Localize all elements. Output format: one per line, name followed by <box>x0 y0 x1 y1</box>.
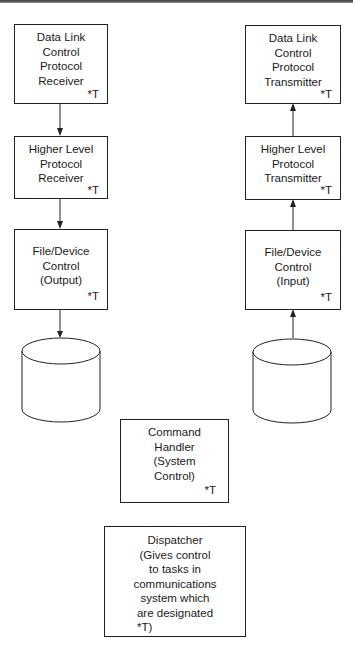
box-label-line: (System <box>121 454 228 469</box>
task-marker: *T <box>88 289 100 304</box>
box-label-line: (Output) <box>15 273 107 288</box>
task-marker: *T <box>205 483 217 498</box>
box-label-line: Dispatcher <box>105 533 245 548</box>
box-label-line: *T) <box>105 620 245 635</box>
box-label-line: (Gives control <box>105 548 245 563</box>
input-storage-cylinder-icon <box>253 339 331 423</box>
box-label-line: Protocol <box>15 157 107 172</box>
arrow-hlp-to-dlc-transmitter <box>290 103 296 136</box>
box-label-line: Data Link <box>15 30 107 45</box>
box-label-line: Higher Level <box>246 142 340 157</box>
dispatcher-box: Dispatcher (Gives control to tasks in co… <box>104 526 246 637</box>
box-label-line: File/Device <box>15 244 107 259</box>
box-label-line: system which <box>105 591 245 606</box>
box-label-line: Data Link <box>246 31 340 46</box>
task-marker: *T <box>321 183 333 198</box>
command-handler-box: Command Handler (System Control) *T <box>120 419 229 503</box>
box-label-line: Receiver <box>15 74 107 89</box>
box-label-line: Control <box>246 46 340 61</box>
hlp-transmitter-box: Higher Level Protocol Transmitter *T <box>245 136 341 200</box>
task-marker: *T <box>321 87 333 102</box>
arrow-fdc-input-to-hlp-transmitter <box>290 199 296 230</box>
box-label-line: to tasks in <box>105 562 245 577</box>
box-label-line: Control) <box>121 469 228 484</box>
dlc-protocol-transmitter-box: Data Link Control Protocol Transmitter *… <box>245 25 341 104</box>
file-device-control-output-box: File/Device Control (Output) *T <box>14 229 108 310</box>
hlp-receiver-box: Higher Level Protocol Receiver *T <box>14 136 108 199</box>
dlc-protocol-receiver-box: Data Link Control Protocol Receiver *T <box>14 24 108 104</box>
box-label-line: Command <box>121 425 228 440</box>
box-label-line: Protocol <box>246 60 340 75</box>
box-label-line: Control <box>15 259 107 274</box>
box-label-line: Control <box>246 260 340 275</box>
task-marker: *T <box>88 87 100 102</box>
arrow-storage-to-fdc-input <box>290 309 296 338</box>
output-storage-cylinder-icon <box>22 338 100 422</box>
box-label-line: (Input) <box>246 274 340 289</box>
box-label-line: Higher Level <box>15 142 107 157</box>
box-label-line: Protocol <box>246 157 340 172</box>
box-label-line: communications <box>105 577 245 592</box>
arrow-hlp-to-fdc-output <box>57 198 63 229</box>
box-label-line: Protocol <box>15 59 107 74</box>
box-label-line: Handler <box>121 440 228 455</box>
arrow-dlc-to-hlp-receiver <box>57 103 63 136</box>
box-label-line: File/Device <box>246 245 340 260</box>
arrow-fdc-output-to-storage <box>57 309 63 338</box>
file-device-control-input-box: File/Device Control (Input) *T <box>245 230 341 310</box>
box-label-line: are designated <box>105 606 245 621</box>
task-marker: *T <box>321 290 333 305</box>
box-label-line: Control <box>15 45 107 60</box>
task-marker: *T <box>88 183 100 198</box>
